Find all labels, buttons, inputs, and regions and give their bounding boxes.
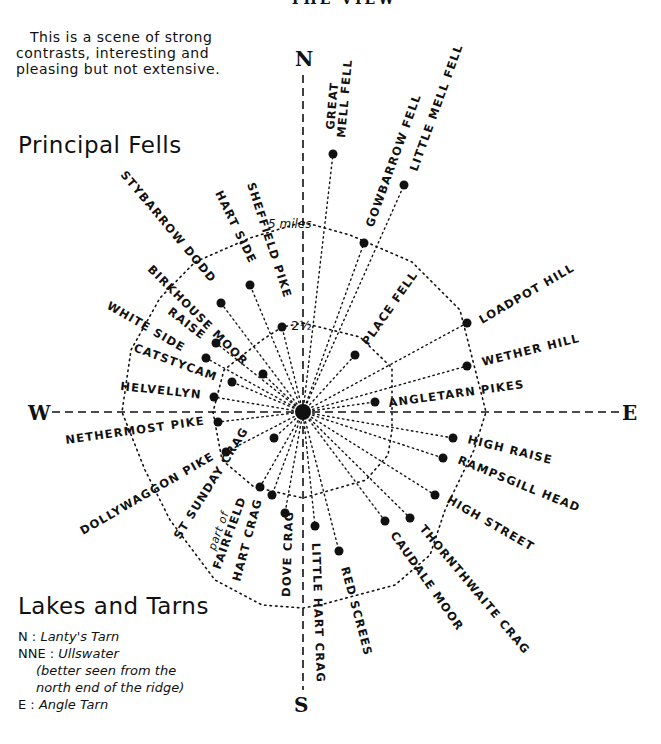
lake-note: (better seen from the [18,662,184,679]
lake-item: E : Angle Tarn [18,696,184,713]
fell-marker [311,522,320,531]
sight-line [303,412,339,551]
fell-marker [259,370,268,379]
lake-item: N : Lanty's Tarn [18,628,184,645]
compass-east: E [622,401,637,425]
compass-west: W [27,401,51,425]
fell-marker [217,299,226,308]
label-stybarrow-dodd: STYBARROW DODD [118,168,220,285]
fell-marker [202,354,211,363]
fell-marker [360,239,369,248]
sight-line [303,412,443,458]
fell-marker [439,454,448,463]
compass-south: S [294,693,308,717]
label-angletarn-pikes: ANGLETARN PIKES [387,377,525,410]
lakes-list: N : Lanty's Tarn NNE : Ullswater (better… [18,628,184,713]
sight-line [260,412,303,487]
fell-marker [463,319,472,328]
lake-item: NNE : Ullswater [18,645,184,662]
label-nethermost-pike: NETHERMOST PIKE [64,414,205,447]
fell-marker [228,378,237,387]
label-wether-hill: WETHER HILL [480,331,581,369]
compass-north: N [295,47,313,71]
viewpoint-marker [295,404,311,420]
fell-marker [268,491,277,500]
lakes-and-tarns-heading: Lakes and Tarns [18,593,209,619]
label-place-fell: PLACE FELL [359,268,421,348]
label-helvellyn: HELVELLYN [120,379,203,401]
fell-marker [381,517,390,526]
lake-name: Lanty's Tarn [40,629,119,644]
sight-line [303,412,410,518]
sight-line [303,402,375,412]
lake-name: Angle Tarn [39,697,108,712]
lake-name: Ullswater [58,646,119,661]
label-dove-crag: DOVE CRAG [279,510,296,597]
fell-marker [463,362,472,371]
sight-line [303,412,435,495]
fell-marker [329,150,338,159]
label-little-hart-crag: LITTLE HART CRAG [309,543,328,684]
scale-2-5-miles: 2½ [291,318,312,333]
sight-line [232,382,303,412]
fell-marker [214,418,223,427]
label-red-screes: RED SCREES [338,565,375,657]
sight-line [218,412,303,422]
fell-marker [371,398,380,407]
fell-marker [246,281,255,290]
label-great-mell-fell-2: MELL FELL [334,58,355,138]
fell-marker [210,393,219,402]
fell-marker [449,434,458,443]
label-high-street: HIGH STREET [445,492,537,553]
lake-direction: N : [18,629,36,644]
scale-5-miles: 5 miles [268,217,311,231]
sight-line [303,355,355,412]
sight-line [303,154,333,412]
label-loadpot-hill: LOADPOT HILL [477,261,577,327]
sight-line [303,412,315,526]
fell-marker [270,434,279,443]
fell-marker [406,514,415,523]
fell-marker [256,483,265,492]
fell-marker [400,181,409,190]
lake-direction: E : [18,697,35,712]
fell-marker [351,351,360,360]
sight-line [303,412,385,521]
lake-direction: NNE : [18,646,54,661]
sight-line [272,412,303,495]
sight-line [250,285,303,412]
fell-marker [431,491,440,500]
lake-note: north end of the ridge) [18,679,184,696]
fell-marker [335,547,344,556]
fell-marker [278,323,287,332]
